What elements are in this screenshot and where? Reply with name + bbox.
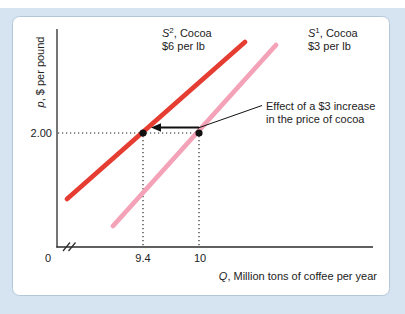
x-tick-10: 10	[194, 252, 206, 264]
y-tick-2-00: 2.00	[31, 127, 52, 139]
x-tick-origin: 0	[45, 252, 51, 264]
annotation-line1: Effect of a $3 increase	[266, 100, 375, 112]
figure-canvas: p, $ per pound 2.00 S2, Cocoa $6 per lb …	[0, 0, 405, 314]
supply-shift-figure: p, $ per pound 2.00 S2, Cocoa $6 per lb …	[0, 0, 405, 314]
y-axis-title: p, $ per pound	[34, 37, 46, 109]
point-s1-equilibrium	[195, 129, 202, 136]
point-s2-equilibrium	[139, 129, 146, 136]
x-tick-9-4: 9.4	[135, 252, 150, 264]
annotation-line2: in the price of cocoa	[266, 113, 365, 125]
s2-curve-price-label: $6 per lb	[162, 40, 205, 52]
s1-curve-price-label: $3 per lb	[308, 40, 351, 52]
x-axis-title: Q, Million tons of coffee per year	[219, 270, 377, 282]
